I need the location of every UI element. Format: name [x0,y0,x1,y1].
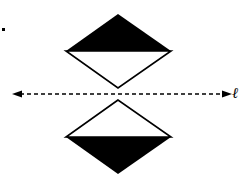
line-label: ℓ [232,84,238,102]
stray-dot [2,28,5,31]
reflection-line [12,91,232,98]
reflection-diagram [0,0,241,186]
upper-diamond-filled-half [66,14,171,51]
upper-diamond-empty-half [66,51,171,88]
upper-diamond [66,14,171,88]
arrow-right-icon [222,91,232,98]
lower-diamond-empty-half [66,100,171,137]
lower-diamond-filled-half [66,137,171,174]
arrow-left-icon [12,91,22,98]
lower-diamond [66,100,171,174]
